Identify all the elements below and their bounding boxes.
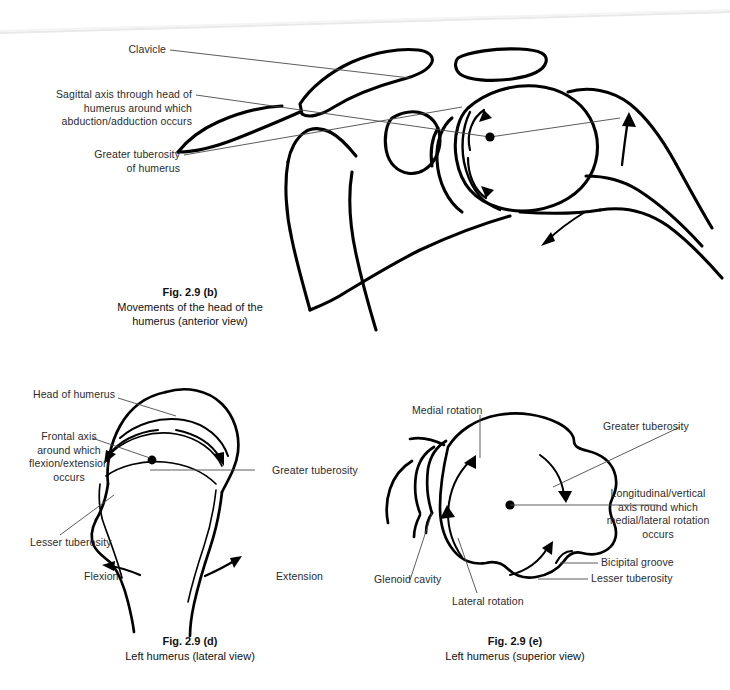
label-greater-tuberosity-d: Greater tuberosity	[272, 464, 358, 478]
frontal-axis-line1: Frontal axis	[41, 430, 96, 442]
label-medial-rotation-e: Medial rotation	[412, 404, 482, 418]
label-flexion-d: Flexion	[84, 570, 119, 584]
greater-tuberosity-b-line1: Greater tuberosity	[94, 148, 180, 160]
label-sagittal-axis: Sagittal axis through head of humerus ar…	[10, 88, 192, 129]
label-greater-tuberosity-b: Greater tuberosity of humerus	[20, 148, 180, 175]
label-head-of-humerus-d: Head of humerus	[33, 388, 115, 402]
label-longitudinal-axis-e: Longitudinal/vertical axis round which m…	[588, 487, 728, 541]
frontal-axis-line4: occurs	[53, 471, 85, 483]
frontal-axis-line2: around which	[37, 444, 101, 456]
sagittal-axis-line1: Sagittal axis through head of	[56, 88, 192, 100]
sagittal-axis-line3: abduction/adduction occurs	[62, 115, 192, 127]
frontal-axis-point-d	[148, 456, 157, 465]
caption-fig-d-id: Fig. 2.9 (d)	[75, 634, 305, 649]
greater-tuberosity-b-line2: of humerus	[126, 162, 180, 174]
caption-fig-b-id: Fig. 2.9 (b)	[55, 285, 325, 300]
caption-fig-e-line1: Left humerus (superior view)	[445, 650, 584, 662]
label-greater-tuberosity-e: Greater tuberosity	[603, 420, 689, 434]
adduction-arrow-b	[541, 212, 585, 246]
fig-d-lateral-drawing	[0, 380, 380, 620]
caption-fig-d-line1: Left humerus (lateral view)	[125, 650, 255, 662]
label-extension-d: Extension	[276, 570, 323, 584]
abduction-arrow-b	[622, 112, 636, 165]
extension-arrow-d	[205, 556, 242, 576]
label-lesser-tuberosity-e: Lesser tuberosity	[591, 572, 673, 586]
longitudinal-axis-line1: Longitudinal/vertical	[611, 487, 706, 499]
arrowhead-d-right	[214, 452, 224, 466]
sagittal-axis-line2: humerus around which	[84, 102, 192, 114]
caption-fig-b-line2: humerus (anterior view)	[132, 315, 248, 327]
rotation-arrowheads-b	[479, 110, 494, 198]
longitudinal-axis-line2: axis round which	[618, 501, 698, 513]
label-clavicle: Clavicle	[60, 43, 166, 57]
label-glenoid-cavity-e: Glenoid cavity	[374, 573, 441, 587]
label-frontal-axis-d: Frontal axis around which flexion/extens…	[15, 430, 123, 484]
longitudinal-axis-line4: occurs	[642, 528, 674, 540]
label-bicipital-groove-e: Bicipital groove	[601, 556, 674, 570]
sagittal-axis-point-b	[485, 132, 494, 141]
caption-fig-e: Fig. 2.9 (e) Left humerus (superior view…	[398, 634, 632, 663]
caption-fig-b-line1: Movements of the head of the	[117, 301, 263, 313]
caption-fig-b: Fig. 2.9 (b) Movements of the head of th…	[55, 285, 325, 329]
caption-fig-e-id: Fig. 2.9 (e)	[398, 634, 632, 649]
longitudinal-axis-line3: medial/lateral rotation	[607, 514, 710, 526]
label-lateral-rotation-e: Lateral rotation	[452, 595, 524, 609]
label-lesser-tuberosity-d: Lesser tuberosity	[30, 536, 112, 550]
figure-page: Clavicle Sagittal axis through head of h…	[0, 0, 730, 690]
caption-fig-d: Fig. 2.9 (d) Left humerus (lateral view)	[75, 634, 305, 663]
frontal-axis-line3: flexion/extension	[29, 457, 109, 469]
